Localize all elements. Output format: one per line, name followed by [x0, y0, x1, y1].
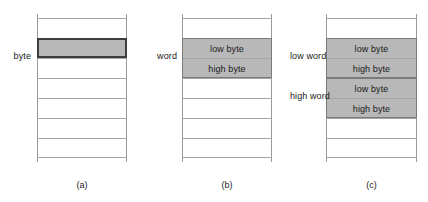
memory-cell — [182, 138, 272, 158]
panel-a-memory-stack — [37, 18, 127, 158]
memory-cell — [182, 78, 272, 98]
panel-c: low byte high byte low byte high byte lo… — [290, 0, 428, 202]
memory-cell-label: high byte — [353, 104, 390, 114]
panel-b: low byte high byte word (b) — [150, 0, 290, 202]
panel-a: byte (a) — [0, 0, 150, 202]
side-label-word: word — [150, 51, 177, 61]
panel-b-caption: (b) — [182, 180, 272, 190]
memory-cell-low-byte: low byte — [326, 38, 417, 58]
memory-cell-label: high byte — [353, 64, 390, 74]
memory-cell-label: low byte — [355, 84, 389, 94]
memory-cell — [37, 98, 127, 118]
memory-cell — [37, 138, 127, 158]
memory-cell-high-byte: high byte — [326, 98, 417, 118]
memory-cell-low-byte: low byte — [326, 78, 417, 98]
panel-b-memory-stack: low byte high byte — [182, 18, 272, 158]
panel-c-caption: (c) — [326, 180, 417, 190]
memory-cell-low-byte: low byte — [182, 38, 272, 58]
memory-cell — [326, 138, 417, 158]
memory-cell-high-byte: high byte — [182, 58, 272, 78]
memory-cell — [37, 58, 127, 78]
panel-c-memory-stack: low byte high byte low byte high byte — [326, 18, 417, 158]
memory-cell — [37, 118, 127, 138]
memory-cell-label: high byte — [208, 64, 245, 74]
panel-a-caption: (a) — [37, 180, 127, 190]
side-label-byte: byte — [0, 51, 31, 61]
side-label-low-word: low word — [290, 51, 321, 61]
memory-cell — [182, 118, 272, 138]
memory-cell — [182, 18, 272, 38]
memory-cell-high-byte: high byte — [326, 58, 417, 78]
memory-cell — [326, 18, 417, 38]
side-label-high-word: high word — [290, 91, 321, 101]
memory-cell — [37, 18, 127, 38]
memory-cell — [326, 118, 417, 138]
memory-cell — [37, 78, 127, 98]
memory-cell-label: low byte — [210, 44, 244, 54]
memory-cell — [182, 98, 272, 118]
memory-cell-byte — [37, 38, 127, 58]
memory-cell-label: low byte — [355, 44, 389, 54]
memory-layout-figure: byte (a) low byte high byte word (b) low… — [0, 0, 428, 202]
